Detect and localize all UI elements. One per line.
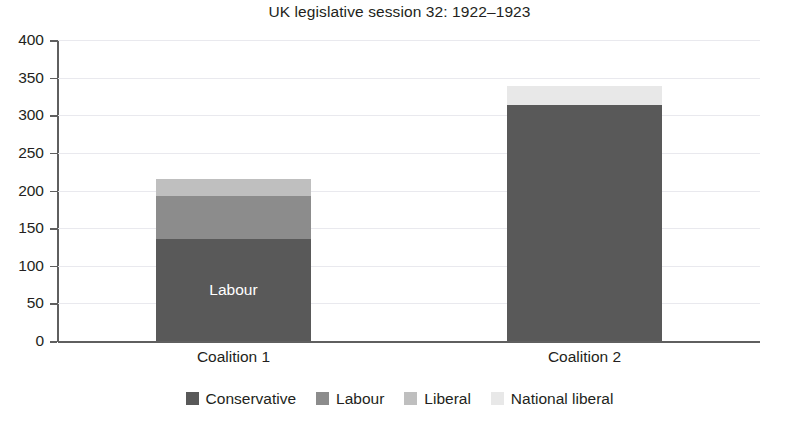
bar-segment[interactable] (156, 179, 311, 196)
chart-legend: ConservativeLabourLiberalNational libera… (0, 391, 799, 407)
legend-swatch-icon (186, 392, 199, 405)
gridline (58, 341, 760, 343)
x-category-label: Coalition 1 (58, 348, 409, 366)
y-tick-label: 0 (0, 333, 44, 349)
legend-swatch-icon (491, 392, 504, 405)
bar-stack[interactable]: Labour (156, 40, 311, 341)
bar-segment[interactable]: Labour (156, 239, 311, 341)
bar-segment[interactable] (507, 105, 662, 341)
stacked-bar-chart: UK legislative session 32: 1922–1923 050… (0, 0, 799, 422)
y-tick-label: 250 (0, 145, 44, 161)
plot-area: Labour (58, 40, 760, 341)
y-tick-mark (50, 40, 57, 42)
y-tick-label: 200 (0, 183, 44, 199)
y-tick-mark (50, 266, 57, 268)
legend-label: Labour (336, 391, 384, 407)
y-tick-mark (50, 115, 57, 117)
bar-value-label: Labour (156, 282, 311, 298)
bar-segment[interactable] (507, 86, 662, 105)
y-tick-label: 300 (0, 107, 44, 123)
legend-label: Conservative (206, 391, 296, 407)
legend-swatch-icon (404, 392, 417, 405)
x-category-label: Coalition 2 (409, 348, 760, 366)
y-tick-label: 100 (0, 258, 44, 274)
y-tick-label: 150 (0, 220, 44, 236)
y-tick-mark (50, 78, 57, 80)
y-tick-mark (50, 303, 57, 305)
chart-title: UK legislative session 32: 1922–1923 (0, 3, 799, 21)
legend-item[interactable]: National liberal (491, 391, 614, 407)
y-tick-label: 350 (0, 70, 44, 86)
bar-segment[interactable] (156, 196, 311, 239)
legend-item[interactable]: Labour (316, 391, 384, 407)
y-tick-label: 400 (0, 32, 44, 48)
y-tick-mark (50, 191, 57, 193)
legend-label: National liberal (511, 391, 614, 407)
legend-swatch-icon (316, 392, 329, 405)
y-tick-mark (50, 228, 57, 230)
y-tick-label: 50 (0, 295, 44, 311)
y-tick-mark (50, 153, 57, 155)
legend-item[interactable]: Liberal (404, 391, 471, 407)
legend-item[interactable]: Conservative (186, 391, 296, 407)
y-tick-mark (50, 341, 57, 343)
legend-label: Liberal (424, 391, 471, 407)
bar-stack[interactable] (507, 40, 662, 341)
